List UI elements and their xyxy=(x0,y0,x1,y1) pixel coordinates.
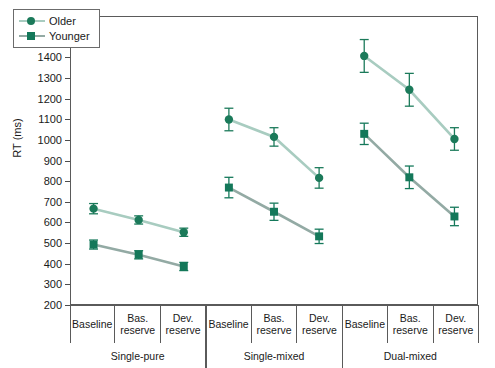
x-axis-group-row: Single-pureSingle-mixedDual-mixed xyxy=(70,343,478,368)
y-tick-label: 1200 xyxy=(28,94,62,104)
data-point-circle xyxy=(225,115,233,123)
y-tick-label: 1100 xyxy=(28,114,62,124)
x-axis-cell: Dev.reserve xyxy=(296,305,341,343)
data-point-circle xyxy=(360,52,368,60)
x-axis-cell-line2: reserve xyxy=(256,324,291,336)
data-point-circle xyxy=(134,216,142,224)
x-axis-group-label: Single-mixed xyxy=(205,343,341,368)
data-point-square xyxy=(225,184,233,192)
x-axis-cell: Baseline xyxy=(342,305,387,343)
circle-marker-icon xyxy=(19,15,45,27)
y-tick-label: 1300 xyxy=(28,73,62,83)
y-tick-label: 600 xyxy=(28,217,62,227)
x-axis-cell-line1: Dev. xyxy=(445,312,466,324)
data-point-circle xyxy=(89,205,97,213)
x-axis-cell: Baseline xyxy=(70,305,114,343)
x-axis-cell-line2: reserve xyxy=(302,324,337,336)
data-point-circle xyxy=(270,133,278,141)
x-axis-cell-line1: Dev. xyxy=(309,312,330,324)
data-point-square xyxy=(90,241,98,249)
chart-legend: Older Younger xyxy=(13,9,100,48)
legend-label-older: Older xyxy=(49,15,76,27)
y-tick-label: 400 xyxy=(28,259,62,269)
data-point-square xyxy=(315,232,323,240)
data-point-square xyxy=(450,212,458,220)
x-axis-group-label: Single-pure xyxy=(70,343,205,368)
x-axis-cell: Bas.reserve xyxy=(387,305,432,343)
y-tick-label: 700 xyxy=(28,197,62,207)
x-axis-condition-row: BaselineBas.reserveDev.reserveBaselineBa… xyxy=(70,305,478,343)
x-axis-cell-line1: Bas. xyxy=(400,312,421,324)
legend-label-younger: Younger xyxy=(49,30,90,42)
data-point-circle xyxy=(405,86,413,94)
y-tick-label: 900 xyxy=(28,156,62,166)
x-axis-cell-line1: Baseline xyxy=(345,318,385,330)
y-tick-label: 200 xyxy=(28,300,62,310)
x-axis-outer-rule xyxy=(478,305,479,343)
data-point-circle xyxy=(315,174,323,182)
square-marker-icon xyxy=(19,30,45,42)
x-axis-label-table: BaselineBas.reserveDev.reserveBaselineBa… xyxy=(70,305,478,368)
y-axis-title: RT (ms) xyxy=(11,93,23,183)
x-axis-cell-line2: reserve xyxy=(438,324,473,336)
x-axis-cell-line1: Dev. xyxy=(173,312,194,324)
x-axis-cell-line2: reserve xyxy=(393,324,428,336)
x-axis-cell-line1: Baseline xyxy=(208,318,248,330)
data-point-square xyxy=(360,130,368,138)
data-point-square xyxy=(135,251,143,259)
x-axis-group-label: Dual-mixed xyxy=(342,343,478,368)
y-tick-label: 1000 xyxy=(28,135,62,145)
x-axis-cell: Dev.reserve xyxy=(160,305,205,343)
x-axis-group-separator xyxy=(206,305,207,368)
x-axis-outer-rule xyxy=(70,305,71,343)
data-point-circle xyxy=(450,135,458,143)
y-tick-label: 800 xyxy=(28,176,62,186)
x-axis-cell: Bas.reserve xyxy=(251,305,296,343)
x-axis-cell-line1: Bas. xyxy=(263,312,284,324)
x-axis-cell-line1: Bas. xyxy=(127,312,148,324)
plot-area xyxy=(70,16,478,305)
data-point-square xyxy=(270,208,278,216)
x-axis-cell-line2: reserve xyxy=(166,324,201,336)
chart-figure: RT (ms) 16001500140013001200110010009008… xyxy=(0,0,495,368)
legend-item-younger: Younger xyxy=(19,28,90,43)
y-tick-label: 300 xyxy=(28,279,62,289)
x-axis-group-separator xyxy=(342,305,343,368)
x-axis-cell: Bas.reserve xyxy=(114,305,159,343)
data-point-square xyxy=(180,263,188,271)
x-axis-cell: Dev.reserve xyxy=(433,305,478,343)
y-tick-label: 500 xyxy=(28,238,62,248)
y-axis-tick-labels: 1600150014001300120011001000900800700600… xyxy=(26,0,62,368)
x-axis-top-rule xyxy=(70,305,478,306)
data-series-layer xyxy=(71,17,477,304)
x-axis-cell: Baseline xyxy=(205,305,250,343)
y-tick-label: 1400 xyxy=(28,52,62,62)
x-axis-cell-line2: reserve xyxy=(120,324,155,336)
data-point-circle xyxy=(180,228,188,236)
legend-item-older: Older xyxy=(19,13,90,28)
data-point-square xyxy=(405,173,413,181)
x-axis-cell-line1: Baseline xyxy=(72,318,112,330)
